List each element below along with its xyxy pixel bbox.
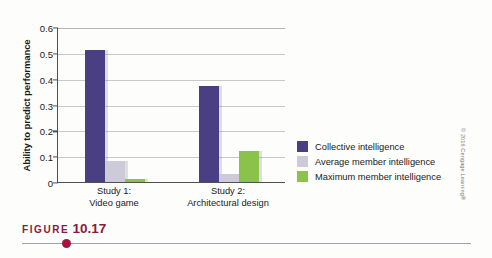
legend-item-1: Collective intelligence bbox=[297, 139, 441, 154]
y-axis-tick-label: 0.3 bbox=[40, 100, 53, 111]
category-label-line: Study 2: bbox=[148, 186, 308, 198]
bar-shadow bbox=[145, 179, 148, 182]
y-axis-tick-mark bbox=[53, 131, 58, 132]
legend-swatch-icon bbox=[297, 141, 308, 152]
legend-item-2: Average member intelligence bbox=[297, 154, 441, 169]
y-axis-tick-mark bbox=[53, 182, 58, 183]
y-axis-tick-label: 0.4 bbox=[40, 74, 53, 85]
category-label-line: Architectural design bbox=[148, 198, 308, 210]
y-axis-tick-mark bbox=[53, 27, 58, 28]
figure-bullet-dot bbox=[62, 239, 71, 248]
y-axis-title: Ability to predict performance bbox=[21, 26, 32, 186]
figure-caption-block: FIGURE10.17 bbox=[0, 216, 492, 258]
bar-collective-intelligence-group-1 bbox=[85, 50, 105, 182]
y-axis-tick-label: 0.5 bbox=[40, 48, 53, 59]
legend-item-3: Maximum member intelligence bbox=[297, 169, 441, 184]
bar-shadow bbox=[259, 151, 262, 182]
legend-swatch-icon bbox=[297, 171, 308, 182]
y-axis-tick-mark bbox=[53, 79, 58, 80]
bar-average-member-intelligence-group-2 bbox=[219, 174, 239, 182]
y-axis-tick-label: 0.6 bbox=[40, 23, 53, 34]
y-axis-tick-label: 0.2 bbox=[40, 126, 53, 137]
figure-label: FIGURE bbox=[22, 224, 69, 235]
figure-caption: FIGURE10.17 bbox=[22, 221, 106, 236]
y-axis-tick-label: 0.1 bbox=[40, 152, 53, 163]
y-axis-tick-mark bbox=[53, 53, 58, 54]
bar-maximum-member-intelligence-group-1 bbox=[125, 179, 145, 182]
x-axis-category-label-2: Study 2:Architectural design bbox=[148, 186, 308, 209]
legend-label: Collective intelligence bbox=[315, 142, 404, 152]
y-axis-tick-mark bbox=[53, 105, 58, 106]
copyright-notice: © 2016 Cengage Learning® bbox=[460, 128, 466, 200]
figure-number: 10.17 bbox=[72, 221, 106, 236]
bar-shadow bbox=[219, 86, 222, 182]
bar-maximum-member-intelligence-group-2 bbox=[239, 151, 259, 182]
legend-label: Maximum member intelligence bbox=[315, 172, 441, 182]
gridline bbox=[58, 28, 285, 29]
y-axis-tick-mark bbox=[53, 157, 58, 158]
bar-collective-intelligence-group-2 bbox=[199, 86, 219, 182]
bar-average-member-intelligence-group-1 bbox=[105, 161, 125, 182]
chart-figure: Ability to predict performance 00.10.20.… bbox=[0, 0, 492, 215]
legend-swatch-icon bbox=[297, 156, 308, 167]
legend-label: Average member intelligence bbox=[315, 157, 435, 167]
plot-area: 00.10.20.30.40.50.6 bbox=[57, 28, 285, 183]
chart-legend: Collective intelligenceAverage member in… bbox=[297, 139, 441, 184]
figure-divider bbox=[22, 243, 471, 244]
